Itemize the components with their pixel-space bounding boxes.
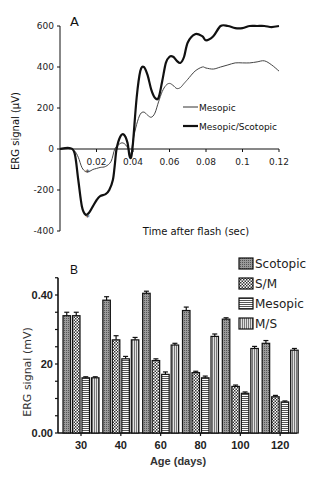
panel-b-xlabel: Age (days) [150, 455, 207, 467]
panel-b-ylabel: ERG signal (mV) [21, 327, 34, 416]
y-tick-label: 20 [41, 358, 53, 370]
panel-a-line-chart: -400-20002004006000.020.040.060.080.10.1… [0, 0, 314, 240]
bar-s-m [112, 340, 120, 433]
bar-s-m [152, 361, 160, 433]
x-tick-label: 0.06 [159, 157, 179, 167]
panel-b-bar-chart: 0.00200.4030406080100120 B Age (days) ER… [0, 240, 314, 484]
bar-scotopic [143, 293, 151, 433]
legend-swatch-m-s [239, 318, 253, 329]
series-line-mesopic-scotopic [60, 25, 279, 215]
bar-scotopic [63, 316, 71, 433]
bar-s-m [272, 397, 280, 433]
y-tick-label: -200 [34, 185, 55, 195]
y-tick-label: 400 [37, 62, 54, 72]
legend-label: M/S [255, 317, 277, 331]
x-tick-label: 100 [231, 439, 249, 451]
bar-mesopic [122, 359, 130, 433]
x-tick-label: 0.02 [86, 157, 106, 167]
bar-scotopic [103, 300, 111, 433]
legend-mesopic-scotopic: Mesopic/Scotopic [199, 122, 277, 132]
x-tick-label: 0.04 [123, 157, 143, 167]
bar-s-m [73, 316, 81, 433]
bar-scotopic [222, 319, 230, 433]
x-tick-label: 0.12 [269, 157, 289, 167]
bar-scotopic [183, 311, 191, 433]
bar-group-100 [222, 318, 258, 433]
x-tick-label: 40 [115, 439, 127, 451]
bar-mesopic [82, 378, 90, 433]
panel-a-ylabel: ERG signal (µV) [10, 92, 21, 170]
x-tick-label: 0.1 [235, 157, 249, 167]
panel-b-legend: ScotopicS/MMesopicM/S [239, 257, 306, 331]
figure: -400-20002004006000.020.040.060.080.10.1… [0, 0, 314, 484]
y-tick-label: 0 [48, 144, 54, 154]
x-tick-label: 0.08 [196, 157, 216, 167]
legend-label: Mesopic [255, 297, 304, 311]
legend-label: Scotopic [255, 257, 306, 271]
bar-m-s [211, 336, 219, 433]
y-tick-label: 600 [37, 21, 54, 31]
bar-mesopic [162, 374, 170, 433]
bar-mesopic [281, 402, 289, 433]
legend-label: S/M [255, 277, 277, 291]
bar-m-s [251, 348, 258, 433]
bar-m-s [131, 340, 139, 433]
x-tick-label: 120 [271, 439, 289, 451]
legend-swatch-mesopic [239, 298, 253, 309]
y-tick-label: 0.40 [32, 289, 53, 301]
bar-m-s [92, 378, 100, 433]
x-tick-label: 30 [75, 439, 87, 451]
bar-group-40 [103, 297, 139, 433]
panel-a-legend: Mesopic Mesopic/Scotopic [183, 103, 277, 132]
y-tick-label: 0.00 [32, 427, 53, 439]
significance-asterisk: * [85, 213, 90, 223]
x-tick-label: 60 [155, 439, 167, 451]
panel-a-xlabel: Time after flash (sec) [142, 226, 249, 237]
y-tick-label: 200 [37, 103, 54, 113]
bar-s-m [232, 386, 240, 433]
bar-m-s [171, 345, 179, 433]
bar-s-m [192, 373, 200, 433]
legend-swatch-s-m [239, 278, 253, 289]
bar-m-s [291, 350, 299, 433]
bar-scotopic [262, 343, 270, 433]
panel-a-label: A [70, 14, 79, 29]
bar-group-60 [143, 291, 179, 433]
series-line-mesopic [60, 61, 279, 172]
panel-b-label: B [70, 263, 78, 277]
bar-mesopic [202, 378, 210, 433]
bar-group-120 [262, 341, 298, 433]
bar-group-80 [183, 307, 219, 433]
legend-mesopic: Mesopic [199, 103, 236, 113]
x-tick-label: 80 [194, 439, 206, 451]
panel-b-bars [63, 291, 298, 433]
y-tick-label: -400 [34, 226, 55, 236]
significance-asterisk: * [85, 168, 90, 178]
legend-swatch-scotopic [239, 258, 253, 269]
bar-mesopic [241, 393, 249, 433]
bar-group-30 [63, 312, 99, 433]
